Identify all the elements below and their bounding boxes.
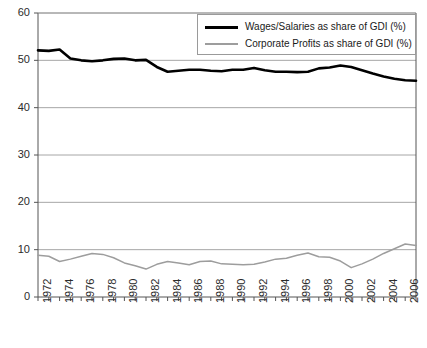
y-tick-label: 10 — [2, 244, 30, 255]
chart-legend: Wages/Salaries as share of GDI (%) Corpo… — [197, 14, 416, 55]
y-tick-label: 0 — [2, 291, 30, 302]
y-tick-label: 60 — [2, 7, 30, 18]
x-tick-label: 1996 — [301, 279, 312, 303]
x-tick-label: 1992 — [258, 279, 269, 303]
x-tick-label: 1990 — [236, 279, 247, 303]
x-tick-label: 1998 — [323, 279, 334, 303]
x-tick-label: 2000 — [344, 279, 355, 303]
y-tick-label: 50 — [2, 54, 30, 65]
x-tick-label: 2006 — [409, 279, 420, 303]
y-tick-label: 40 — [2, 102, 30, 113]
x-tick-label: 2004 — [388, 279, 399, 303]
series-lines — [38, 49, 416, 269]
x-tick-label: 1982 — [150, 279, 161, 303]
y-tick-marks — [34, 13, 38, 297]
legend-swatch-profits-icon — [205, 43, 238, 45]
y-tick-label: 20 — [2, 196, 30, 207]
legend-label-profits: Corporate Profits as share of GDI (%) — [245, 39, 412, 49]
x-tick-label: 2002 — [366, 279, 377, 303]
x-tick-label: 1994 — [280, 279, 291, 303]
x-tick-label: 1974 — [64, 279, 75, 303]
x-tick-label: 1986 — [193, 279, 204, 303]
legend-label-wages: Wages/Salaries as share of GDI (%) — [245, 22, 406, 32]
x-tick-label: 1976 — [85, 279, 96, 303]
y-tick-label: 30 — [2, 149, 30, 160]
legend-item-wages: Wages/Salaries as share of GDI (%) — [205, 19, 406, 35]
x-tick-label: 1988 — [215, 279, 226, 303]
x-tick-label: 1972 — [42, 279, 53, 303]
legend-item-profits: Corporate Profits as share of GDI (%) — [205, 36, 412, 52]
chart-container: 0102030405060 19721974197619781980198219… — [0, 0, 427, 348]
x-tick-label: 1978 — [107, 279, 118, 303]
x-tick-label: 1984 — [172, 279, 183, 303]
x-tick-label: 1980 — [128, 279, 139, 303]
legend-swatch-wages-icon — [205, 26, 238, 29]
